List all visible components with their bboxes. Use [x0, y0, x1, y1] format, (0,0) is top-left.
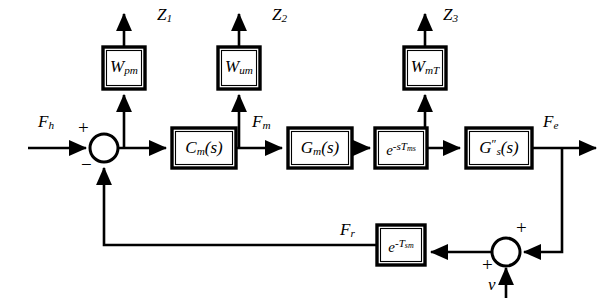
signal-label-fh: Fh — [38, 113, 54, 131]
summing-junction-right — [492, 238, 520, 266]
summing-junction-left — [90, 134, 118, 162]
block-label-w-pm: Wpm — [103, 58, 145, 76]
block-label-g-m: Gm(s) — [288, 139, 352, 157]
signal-label-fm: Fm — [252, 113, 271, 131]
sign-minus-sum-left: − — [81, 155, 92, 174]
signal-label-fr: Fr — [340, 221, 355, 239]
block-label-w-mt: WmT — [404, 58, 446, 76]
signal-label-z1: Z1 — [157, 6, 172, 24]
sign-plus-sum-right-bottom: + — [482, 255, 493, 274]
block-label-g-s: G″s(s) — [466, 139, 532, 157]
block-label-delay-sm: e-Tsm — [377, 238, 425, 255]
signal-label-v: v — [488, 276, 496, 293]
sign-plus-sum-right-top: + — [516, 218, 527, 237]
block-label-w-um: Wum — [218, 58, 260, 76]
signal-label-z2: Z2 — [272, 6, 287, 24]
block-label-c-m: Cm(s) — [172, 139, 236, 157]
block-diagram-canvas: Wpm Wum WmT Cm(s) Gm(s) e-sTms G″s(s) e-… — [0, 0, 609, 302]
sign-plus-sum-left: + — [78, 118, 89, 137]
block-label-delay-ms: e-sTms — [375, 141, 427, 158]
wire-delay-sm-to-sum-left — [104, 168, 377, 245]
signal-label-z3: Z3 — [443, 6, 458, 24]
signal-label-fe: Fe — [543, 113, 558, 131]
